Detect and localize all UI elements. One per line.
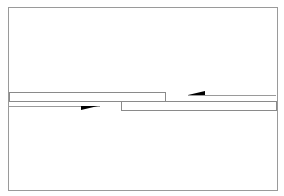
arrow-right-icon: [81, 106, 98, 110]
left-upper-bar: [10, 93, 166, 102]
arrow-left-icon: [188, 91, 205, 95]
diagram-canvas: [0, 0, 284, 196]
right-lower-bar: [122, 102, 277, 111]
